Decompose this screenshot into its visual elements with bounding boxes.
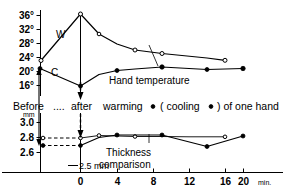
chart-canvas: 36° 32° 28° 24° 20° 16° W xyxy=(0,0,285,189)
zero-arrow-head-lower xyxy=(78,130,84,138)
caption-cooling: ( cooling xyxy=(160,100,200,112)
xtick-20: 20 xyxy=(238,176,250,187)
hand-temperature-annotation: Hand temperature xyxy=(109,75,190,86)
caption-tail: ) of one hand xyxy=(217,100,279,112)
xtick-8: 8 xyxy=(151,176,157,187)
xtick-4: 4 xyxy=(115,176,121,187)
upper-ytick-28: 28° xyxy=(19,38,34,49)
baseline-note: 2.5 mm xyxy=(79,161,109,171)
xtick-0: 0 xyxy=(78,176,84,187)
upper-ytick-24: 24° xyxy=(19,52,34,63)
thickness-panel: mm 3.0 2.8 2.6 xyxy=(20,111,245,172)
x-axis: 0 4 8 12 16 20 min. xyxy=(2,169,283,188)
legend-cooling-marker-icon xyxy=(209,105,213,109)
series-label-c: C xyxy=(51,67,58,78)
xtick-16: 16 xyxy=(220,176,232,187)
upper-ytick-36: 36° xyxy=(19,10,34,21)
legend-warming-marker-icon xyxy=(151,105,155,109)
caption-row: Before .... after warming ( cooling ) of… xyxy=(13,100,279,112)
upper-ytick-20: 20° xyxy=(19,66,34,77)
figure-container: 36° 32° 28° 24° 20° 16° W xyxy=(0,0,285,189)
lower-ytick-26: 2.6 xyxy=(20,147,34,158)
upper-ytick-32: 32° xyxy=(19,24,34,35)
lower-ytick-30: 3.0 xyxy=(20,117,34,128)
lower-ytick-28: 2.8 xyxy=(20,132,34,143)
caption-dots: .... xyxy=(53,100,65,112)
thickness-annotation-line1: Thickness xyxy=(106,147,151,158)
zero-arrow-head-upper xyxy=(78,92,84,100)
caption-warming: warming xyxy=(102,100,143,112)
series-w-markers xyxy=(39,12,227,63)
hand-temperature-panel: 36° 32° 28° 24° 20° 16° W xyxy=(19,10,245,96)
series-label-w: W xyxy=(56,29,66,40)
series-w-line xyxy=(41,14,225,61)
hand-temperature-leader xyxy=(149,45,158,66)
caption-after: after xyxy=(71,100,93,112)
upper-ytick-16: 16° xyxy=(19,80,34,91)
x-axis-unit-label: min. xyxy=(258,179,271,186)
xtick-12: 12 xyxy=(184,176,196,187)
